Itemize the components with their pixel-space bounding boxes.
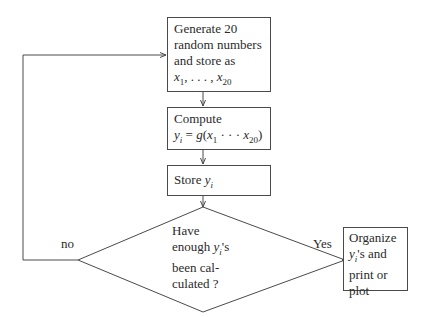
organize-line-1: Organize — [349, 230, 402, 246]
generate-line-1: Generate 20 — [174, 21, 264, 37]
decision-line-2: enough yi's — [172, 239, 229, 260]
math-sep: , . . . , — [184, 69, 217, 84]
decision-text-pre: enough — [172, 239, 214, 254]
organize-line-2: yi's and — [349, 246, 402, 267]
store-box: Store yi — [167, 165, 271, 196]
no-label: no — [61, 236, 74, 251]
arrow-no-loop — [23, 55, 166, 260]
generate-line-3: and store as — [174, 53, 264, 69]
organize-line-4: plot — [349, 283, 402, 299]
math-eq: = — [182, 127, 196, 142]
math-dots: · · · — [217, 127, 243, 142]
math-sub: i — [210, 180, 213, 190]
decision-line-3: been cal- — [172, 260, 229, 276]
compute-box: Compute yi = g(x1 · · · x20) — [167, 107, 271, 150]
store-text: Store — [174, 172, 205, 187]
organize-text-post: 's and — [357, 246, 386, 261]
decision-text-post: 's — [222, 239, 229, 254]
compute-formula: yi = g(x1 · · · x20) — [174, 127, 264, 148]
decision-line-1: Have — [172, 223, 229, 239]
organize-box: Organize yi's and print or plot — [343, 227, 408, 291]
generate-numbers-box: Generate 20 random numbers and store as … — [167, 17, 271, 92]
yes-label: Yes — [313, 236, 332, 251]
decision-text: Have enough yi's been cal- culated ? — [172, 223, 229, 292]
math-sub: 20 — [223, 77, 232, 87]
compute-label: Compute — [174, 111, 264, 127]
generate-line-2: random numbers — [174, 37, 264, 53]
math-paren: ) — [258, 127, 262, 142]
decision-line-4: culated ? — [172, 276, 229, 292]
organize-line-3: print or — [349, 267, 402, 283]
math-sub: 20 — [249, 135, 258, 145]
generate-math-line: x1, . . . , x20 — [174, 69, 264, 90]
store-label: Store yi — [174, 172, 264, 193]
